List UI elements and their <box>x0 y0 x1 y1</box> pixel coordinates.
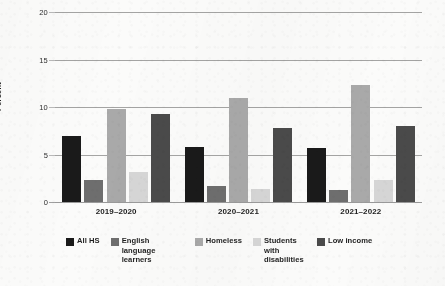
bar <box>62 136 81 202</box>
legend-swatch-icon <box>66 238 74 246</box>
bar <box>207 186 226 202</box>
bar-group <box>177 12 299 202</box>
legend-item[interactable]: All HS <box>66 236 100 246</box>
bar <box>151 114 170 202</box>
legend-label: All HS <box>77 236 100 246</box>
y-tick-label-15: 15 <box>39 55 48 64</box>
chart-legend: All HSEnglish language learnersHomelessS… <box>66 236 436 265</box>
bar-group <box>300 12 422 202</box>
legend-label: Low income <box>328 236 372 246</box>
y-axis-title: Percent <box>0 82 3 111</box>
legend-item[interactable]: English language learners <box>111 236 184 265</box>
x-tick-label: 2019–2020 <box>96 207 137 216</box>
plot-area <box>55 12 422 202</box>
bar <box>251 189 270 202</box>
bar <box>351 85 370 202</box>
bar <box>185 147 204 202</box>
x-tick-label: 2021–2022 <box>340 207 381 216</box>
legend-label: English language learners <box>122 236 184 265</box>
y-tick-label-5: 5 <box>44 150 48 159</box>
legend-swatch-icon <box>317 238 325 246</box>
bar <box>396 126 415 202</box>
y-tick-mark <box>49 202 55 203</box>
legend-item[interactable]: Low income <box>317 236 372 246</box>
bar <box>374 180 393 202</box>
legend-item[interactable]: Students with disabilities <box>253 236 306 265</box>
legend-label: Students with disabilities <box>264 236 306 265</box>
legend-swatch-icon <box>253 238 261 246</box>
bar <box>229 98 248 202</box>
bar-group <box>55 12 177 202</box>
legend-swatch-icon <box>195 238 203 246</box>
bar <box>307 148 326 202</box>
bar <box>329 190 348 202</box>
y-tick-label-20: 20 <box>39 8 48 17</box>
legend-label: Homeless <box>206 236 242 246</box>
x-tick-label: 2020–2021 <box>218 207 259 216</box>
gridline-0 <box>55 202 422 203</box>
legend-swatch-icon <box>111 238 119 246</box>
bar <box>107 109 126 202</box>
legend-item[interactable]: Homeless <box>195 236 242 246</box>
y-axis-tick-labels: 05101520 <box>26 12 48 202</box>
bar <box>84 180 103 202</box>
grouped-bar-chart: Percent 05101520 2019–20202020–20212021–… <box>0 0 445 286</box>
bar <box>129 172 148 202</box>
y-tick-label-0: 0 <box>44 198 48 207</box>
bar <box>273 128 292 202</box>
y-tick-label-10: 10 <box>39 103 48 112</box>
